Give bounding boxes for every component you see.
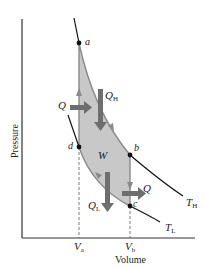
isotherm-high-label: TH [186, 197, 197, 210]
work-label: W [98, 150, 107, 161]
q-low-label: QL [88, 200, 100, 213]
x-tick-va: Va [74, 241, 84, 254]
point-b [128, 153, 133, 158]
q-high-label: QH [105, 90, 118, 103]
x-tick-vb: Vb [125, 241, 135, 254]
isotherm-high-tail [130, 155, 183, 196]
x-axis-title: Volume [115, 255, 146, 265]
point-d [77, 145, 82, 150]
point-d-label: d [68, 141, 73, 151]
point-a [77, 41, 82, 46]
point-c-label: c [133, 199, 137, 209]
q-left-label: Q [58, 100, 66, 111]
y-axis-title: Pressure [10, 124, 20, 158]
q-right-label: Q [143, 183, 151, 194]
pv-diagram: a b c d W Q Q QH QL TH TL Va Vb Volume P… [0, 0, 206, 269]
isotherm-high [74, 18, 79, 43]
isotherm-low-label: TL [165, 222, 175, 235]
point-a-label: a [85, 37, 90, 47]
point-c [128, 204, 133, 209]
point-b-label: b [134, 143, 139, 153]
